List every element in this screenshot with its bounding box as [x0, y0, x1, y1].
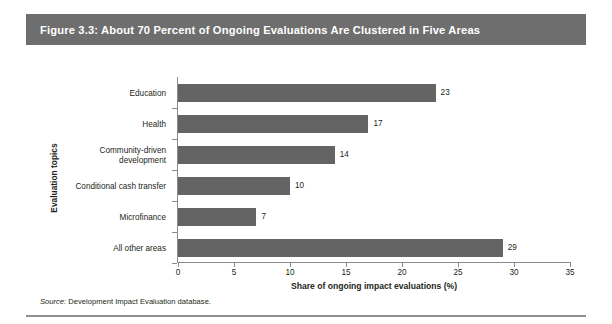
- x-axis-tick-label: 5: [232, 268, 237, 277]
- x-axis-tick-label: 30: [509, 268, 518, 277]
- bar-value-label: 14: [340, 150, 349, 159]
- x-axis-tick-label: 0: [176, 268, 181, 277]
- bar: [178, 115, 368, 133]
- y-axis-category-label: Microfinance: [120, 213, 166, 223]
- y-axis-tick: [172, 108, 177, 109]
- source-label: Source:: [40, 297, 66, 306]
- y-axis-tick: [172, 232, 177, 233]
- y-axis-category-label: Conditional cash transfer: [75, 182, 166, 192]
- bar: [178, 146, 335, 164]
- bottom-divider: [26, 315, 586, 317]
- bar-value-label: 17: [373, 119, 382, 128]
- y-axis-tick: [172, 201, 177, 202]
- bar-value-label: 7: [261, 212, 266, 221]
- x-axis-tick-label: 20: [397, 268, 406, 277]
- bar-value-label: 23: [441, 88, 450, 97]
- y-axis-title-text: Evaluation topics: [49, 143, 59, 212]
- bar: [178, 208, 256, 226]
- y-axis-tick: [172, 170, 177, 171]
- chart-plot-area: Evaluation topics EducationHealthCommuni…: [0, 0, 612, 324]
- bar: [178, 239, 503, 257]
- bar: [178, 177, 290, 195]
- bar-value-label: 29: [508, 243, 517, 252]
- figure-container: Figure 3.3: About 70 Percent of Ongoing …: [0, 0, 612, 324]
- bar-value-label: 10: [295, 181, 304, 190]
- y-axis-category-labels: EducationHealthCommunity-driven developm…: [66, 78, 172, 260]
- x-axis-tick-label: 35: [565, 268, 574, 277]
- x-axis-tick-label: 25: [453, 268, 462, 277]
- x-axis-tick-label: 10: [285, 268, 294, 277]
- y-axis-category-label: Health: [142, 120, 166, 130]
- y-axis-tick: [172, 139, 177, 140]
- source-text: Development Impact Evaluation database.: [66, 297, 211, 306]
- y-axis-title: Evaluation topics: [46, 108, 62, 248]
- x-axis-title: Share of ongoing impact evaluations (%): [178, 281, 570, 291]
- y-axis-category-label: All other areas: [113, 244, 166, 254]
- y-axis-category-label: Community-driven development: [100, 146, 166, 166]
- x-axis-tick: [570, 262, 571, 267]
- bar: [178, 84, 436, 102]
- x-axis-tick-label: 15: [341, 268, 350, 277]
- bar-series: 23171410729: [178, 77, 570, 263]
- source-note: Source: Development Impact Evaluation da…: [40, 297, 211, 306]
- y-axis-tick: [172, 263, 177, 264]
- y-axis-category-label: Education: [130, 89, 166, 99]
